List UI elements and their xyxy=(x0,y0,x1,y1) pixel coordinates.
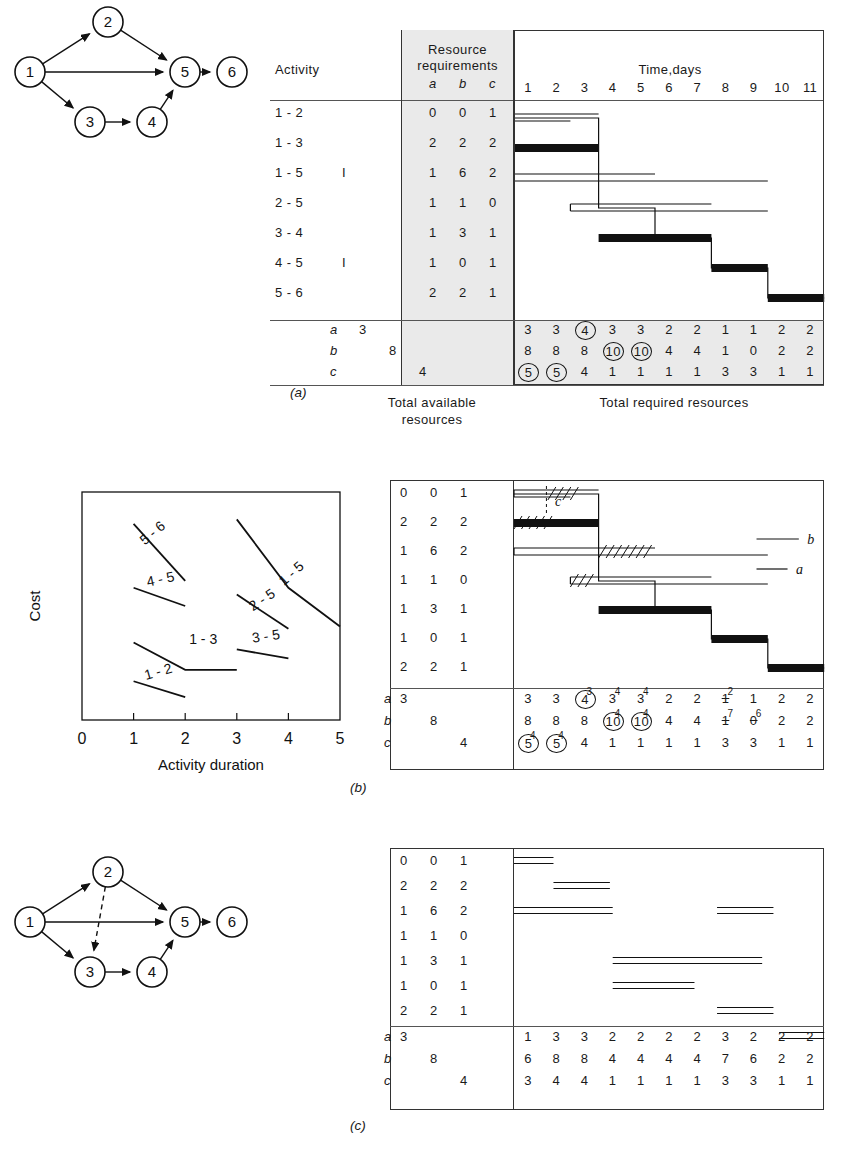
required-resource-value: 0 xyxy=(740,343,768,358)
resource-row-label: c xyxy=(384,1073,391,1088)
cost-curve xyxy=(237,649,289,658)
required-resource-value: 8 xyxy=(542,1051,570,1066)
required-resource-value: 2 xyxy=(683,322,711,337)
resource-value-c: 1 xyxy=(460,659,468,674)
required-resource-value: 3 xyxy=(740,735,768,750)
resource-value-b: 3 xyxy=(430,601,438,616)
gantt-annotation-label: c xyxy=(555,494,562,509)
x-axis-label: Activity duration xyxy=(158,756,264,773)
resource-value-a: 2 xyxy=(400,1003,408,1018)
gantt-annotation-label: b xyxy=(807,532,814,547)
required-resource-value: 6 xyxy=(740,1051,768,1066)
required-resource-value: 4 xyxy=(655,713,683,728)
resource-value-c: 1 xyxy=(460,953,468,968)
required-resource-value: 6 xyxy=(514,1051,542,1066)
required-resource-value: 2 xyxy=(796,343,824,358)
x-axis-tick-label: 4 xyxy=(284,730,293,747)
required-resource-value-revised: 1 xyxy=(712,691,740,706)
required-resource-value: 2 xyxy=(655,322,683,337)
resource-value-b: 0 xyxy=(430,853,438,868)
required-resource-value: 2 xyxy=(599,1029,627,1044)
required-resource-value: 4 xyxy=(599,1051,627,1066)
resource-value-a: 1 xyxy=(400,543,408,558)
cost-curve xyxy=(134,681,186,697)
network-edge xyxy=(121,30,167,60)
network-edge xyxy=(160,940,173,959)
gantt-b: cba xyxy=(514,482,824,687)
totals-rule-c xyxy=(390,1026,824,1027)
activity-flag: I xyxy=(342,165,346,180)
activity-flag: I xyxy=(342,255,346,270)
network-edge xyxy=(43,884,90,914)
cost-curve-label: 1 - 3 xyxy=(189,631,217,647)
required-resource-value: 1 xyxy=(683,364,711,379)
available-resource-value: 4 xyxy=(460,1073,468,1088)
required-resource-value: 1 xyxy=(655,1073,683,1088)
required-resource-value: 2 xyxy=(655,691,683,706)
required-resource-value: 1 xyxy=(796,364,824,379)
required-resource-value: 3 xyxy=(571,1029,599,1044)
available-resource-value: 8 xyxy=(389,343,397,358)
required-resource-value: 3 xyxy=(514,1073,542,1088)
required-resource-value: 1 xyxy=(683,735,711,750)
totals-bottom-rule-a xyxy=(270,385,824,386)
required-resource-value-exceeded: 10 xyxy=(631,712,652,731)
required-resource-value: 1 xyxy=(627,735,655,750)
resource-value-c: 1 xyxy=(460,853,468,868)
required-resource-value: 1 xyxy=(627,364,655,379)
resource-value-b: 0 xyxy=(430,630,438,645)
required-resource-value: 4 xyxy=(683,343,711,358)
resource-value-a: 2 xyxy=(400,514,408,529)
required-resource-value: 8 xyxy=(571,713,599,728)
required-resource-value: 2 xyxy=(740,1029,768,1044)
required-resource-value: 3 xyxy=(599,691,627,706)
network-node-label: 6 xyxy=(228,913,236,930)
cost-curve-label: 2 - 5 xyxy=(246,585,278,614)
required-resource-value: 1 xyxy=(740,322,768,337)
resource-value-a: 1 xyxy=(400,601,408,616)
resource-value-b: 6 xyxy=(430,903,438,918)
cost-curve-label: 5 - 6 xyxy=(136,517,168,547)
network-node: 2 xyxy=(93,7,123,37)
resource-value-a: 0 xyxy=(400,853,408,868)
resource-value-b: 3 xyxy=(430,953,438,968)
resource-row-label: a xyxy=(384,1029,392,1044)
x-axis-tick-label: 0 xyxy=(78,730,87,747)
network-node: 5 xyxy=(170,907,200,937)
available-resource-value: 8 xyxy=(430,1051,438,1066)
network-node: 6 xyxy=(217,907,247,937)
resource-value-c: 1 xyxy=(460,485,468,500)
required-resource-value: 2 xyxy=(768,1029,796,1044)
available-resource-value: 3 xyxy=(400,691,408,706)
network-node-label: 5 xyxy=(181,913,189,930)
required-resource-value: 3 xyxy=(712,364,740,379)
required-resource-value: 3 xyxy=(740,1073,768,1088)
resource-value-c: 1 xyxy=(460,601,468,616)
required-resource-value: 1 xyxy=(712,343,740,358)
required-resource-value: 1 xyxy=(768,1073,796,1088)
resource-value-b: 0 xyxy=(430,485,438,500)
resource-value-a: 1 xyxy=(400,903,408,918)
total-available-label-2: resources xyxy=(352,412,512,427)
required-resource-value: 2 xyxy=(683,1029,711,1044)
required-resource-value-exceeded: 4 xyxy=(575,321,596,340)
network-edge xyxy=(43,34,90,64)
required-resource-value: 2 xyxy=(683,691,711,706)
cost-chart-svg: 012345Activity durationCost5 - 64 - 51 -… xyxy=(20,470,360,770)
resource-value-c: 0 xyxy=(460,572,468,587)
required-resource-value-revised: 0 xyxy=(740,713,768,728)
resource-value-c: 0 xyxy=(460,928,468,943)
x-axis-tick-label: 2 xyxy=(181,730,190,747)
resource-value-c: 2 xyxy=(460,514,468,529)
available-resource-value: 8 xyxy=(430,713,438,728)
required-resource-value: 3 xyxy=(514,691,542,706)
required-resource-value: 3 xyxy=(542,1029,570,1044)
required-resource-value: 1 xyxy=(655,364,683,379)
required-resource-value: 8 xyxy=(571,343,599,358)
network-node-label: 2 xyxy=(104,13,112,30)
network-edge xyxy=(42,82,74,108)
resource-value-c: 2 xyxy=(460,543,468,558)
required-resource-value: 7 xyxy=(712,1051,740,1066)
panel-b: 012345Activity durationCost5 - 64 - 51 -… xyxy=(0,460,859,820)
panel-a: 123456 Activity Resource requirements a … xyxy=(0,0,859,450)
